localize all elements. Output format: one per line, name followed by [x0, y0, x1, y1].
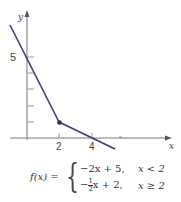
case-2-condition: x ≥ 2 [138, 180, 165, 191]
formula-lhs: f(x) = [30, 171, 59, 182]
x-axis-label: x [169, 141, 174, 151]
case-2-sign: − [80, 179, 88, 190]
brace-icon: { [66, 158, 79, 192]
piecewise-graph: y x 5 2 4 [0, 0, 181, 158]
y-axis-label: y [17, 12, 24, 22]
x-tick-label-4: 4 [89, 141, 95, 152]
case-1-condition: x < 2 [138, 163, 165, 174]
y-tick-label-5: 5 [10, 51, 16, 63]
breakpoint-dot [57, 120, 62, 125]
y-axis-arrow-icon [25, 10, 30, 17]
case-2-expression: x + 2, [93, 179, 123, 190]
line-segment-2 [59, 122, 115, 149]
formula-case-2: −12x + 2, x ≥ 2 [80, 178, 123, 193]
x-axis-arrow-icon [165, 136, 172, 141]
line-segment-1 [10, 25, 59, 122]
case-1-expression: −2x + 5, [80, 163, 125, 174]
x-tick-label-2: 2 [56, 141, 62, 152]
formula-case-1: −2x + 5, x < 2 [80, 163, 125, 174]
piecewise-formula: f(x) = { −2x + 5, x < 2 −12x + 2, x ≥ 2 [30, 158, 170, 198]
